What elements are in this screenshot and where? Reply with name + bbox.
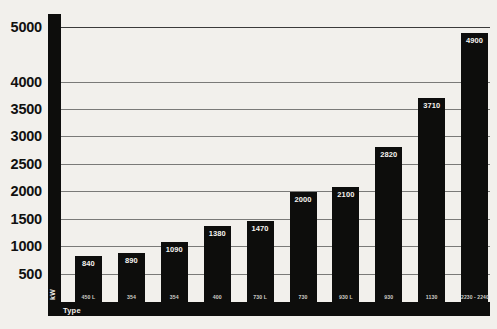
bar-category-label: 354 — [161, 294, 188, 300]
bar-category-label: 2230 - 2240 — [461, 294, 488, 300]
y-axis-tick-label: 2000 — [11, 183, 42, 199]
bar-value-label: 890 — [118, 256, 145, 265]
bar-category-label: 400 — [204, 294, 231, 300]
y-axis-tick-label: 1000 — [11, 238, 42, 254]
bar-slot: 49002230 - 2240 — [461, 14, 488, 316]
bar[interactable]: 37101130 — [418, 98, 445, 316]
bar-category-label: 450 L — [75, 294, 102, 300]
x-axis-baseline: Type — [48, 302, 490, 316]
bar-series: 840450 L890354109035413804001470730 L200… — [61, 14, 490, 316]
y-axis-tick-label: 5000 — [11, 19, 42, 35]
x-axis-unit-label: Type — [63, 306, 81, 315]
y-axis-tick-label: 3000 — [11, 128, 42, 144]
bar-value-label: 2100 — [332, 190, 359, 199]
bar-category-label: 930 L — [332, 294, 359, 300]
bar-slot: 1380400 — [204, 14, 231, 316]
y-axis-tick-label: 3500 — [11, 101, 42, 117]
bar-slot: 1090354 — [161, 14, 188, 316]
bar-value-label: 1380 — [204, 229, 231, 238]
y-axis-tick-label: 500 — [18, 266, 42, 282]
bar-category-label: 730 L — [247, 294, 274, 300]
y-axis-unit-label: kW — [49, 289, 60, 300]
bar-value-label: 2000 — [290, 195, 317, 204]
bar-value-label: 4900 — [461, 36, 488, 45]
bar[interactable]: 2100930 L — [332, 187, 359, 316]
bar-slot: 890354 — [118, 14, 145, 316]
y-axis-tick-label: 1500 — [11, 211, 42, 227]
bar-slot: 2820930 — [375, 14, 402, 316]
bar-value-label: 3710 — [418, 101, 445, 110]
plot-area: 50010001500200025003000350040005000 kW 8… — [48, 14, 490, 316]
bar-category-label: 354 — [118, 294, 145, 300]
bar-slot: 840450 L — [75, 14, 102, 316]
bar-category-label: 930 — [375, 294, 402, 300]
y-axis-spine: kW — [48, 14, 61, 316]
bar-category-label: 1130 — [418, 294, 445, 300]
bar-slot: 37101130 — [418, 14, 445, 316]
bar[interactable]: 2820930 — [375, 147, 402, 316]
y-axis-tick-label: 4000 — [11, 74, 42, 90]
bar-value-label: 2820 — [375, 150, 402, 159]
bar-value-label: 1090 — [161, 245, 188, 254]
bar-category-label: 730 — [290, 294, 317, 300]
bar-value-label: 1470 — [247, 224, 274, 233]
bar[interactable]: 2000730 — [290, 192, 317, 316]
bar-slot: 2100930 L — [332, 14, 359, 316]
bar[interactable]: 49002230 - 2240 — [461, 33, 488, 316]
bar-value-label: 840 — [75, 259, 102, 268]
bar-slot: 2000730 — [290, 14, 317, 316]
bar-slot: 1470730 L — [247, 14, 274, 316]
y-axis-tick-label: 2500 — [11, 156, 42, 172]
bar-chart: 50010001500200025003000350040005000 kW 8… — [0, 0, 497, 329]
